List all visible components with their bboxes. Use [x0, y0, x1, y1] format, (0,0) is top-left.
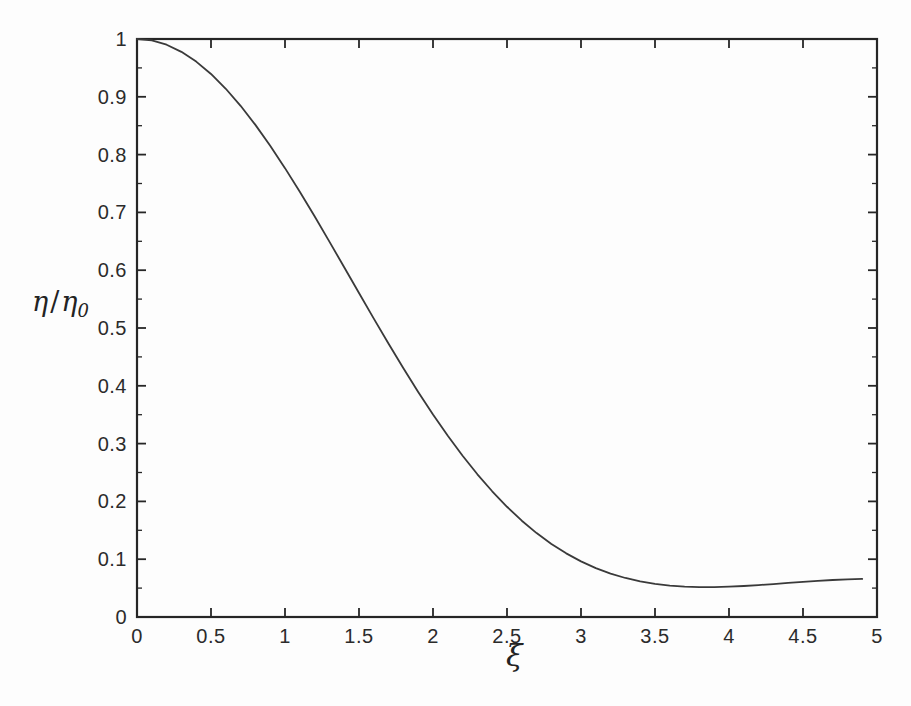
- y-tick-label: 0.5: [98, 317, 127, 340]
- y-tick-label: 1: [115, 28, 127, 51]
- y-tick-label: 0.3: [98, 432, 127, 455]
- y-axis-subscript: 0: [77, 300, 88, 321]
- tick-marks: [137, 39, 877, 617]
- x-tick-label: 5: [871, 625, 883, 648]
- y-axis-eta: η: [32, 286, 48, 317]
- y-axis-title: η/η0: [32, 286, 89, 321]
- y-tick-label: 0.2: [98, 490, 127, 513]
- x-tick-label: 0: [131, 625, 143, 648]
- x-tick-label: 4: [723, 625, 735, 648]
- plot-svg: [0, 0, 911, 706]
- plot-box: [137, 39, 877, 617]
- y-tick-label: 0.7: [98, 201, 127, 224]
- x-tick-label: 1: [279, 625, 291, 648]
- y-tick-label: 0.9: [98, 85, 127, 108]
- x-axis-title: ξ: [506, 638, 523, 673]
- axes-frame: [137, 39, 877, 617]
- x-tick-label: 0.5: [196, 625, 225, 648]
- y-tick-label: 0.8: [98, 143, 127, 166]
- data-line-group: [137, 39, 862, 587]
- y-axis-eta0: η: [61, 286, 77, 317]
- figure-canvas: 00.511.522.533.544.5500.10.20.30.40.50.6…: [0, 0, 911, 706]
- y-tick-label: 0.1: [98, 548, 127, 571]
- x-tick-label: 3.5: [640, 625, 669, 648]
- y-tick-label: 0.6: [98, 259, 127, 282]
- x-tick-label: 4.5: [788, 625, 817, 648]
- x-tick-label: 1.5: [344, 625, 373, 648]
- y-tick-label: 0.4: [98, 374, 127, 397]
- y-tick-label: 0: [115, 606, 127, 629]
- x-tick-label: 3: [575, 625, 587, 648]
- airy-curve: [137, 39, 862, 587]
- y-axis-slash: /: [48, 286, 61, 317]
- x-tick-label: 2: [427, 625, 439, 648]
